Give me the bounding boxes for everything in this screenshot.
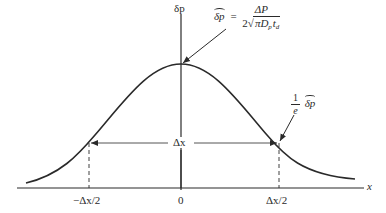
one-over-e: 1 e — [291, 93, 300, 116]
tick-label-neg-half-width: −Δx/2 — [73, 195, 100, 206]
y-axis-label: δp — [174, 3, 185, 14]
equals-sign: = — [230, 10, 236, 22]
peak-fraction: ΔP 2√πDp td — [242, 4, 280, 31]
falloff-pointer-arrow — [280, 115, 294, 141]
width-label: Δx — [172, 137, 187, 148]
peak-hat-symbol: δp — [214, 11, 225, 22]
x-axis-label: x — [367, 181, 372, 192]
tick-label-pos-half-width: Δx/2 — [266, 195, 287, 206]
diagram-canvas — [0, 0, 386, 213]
peak-pointer-arrow — [183, 29, 226, 63]
gaussian-curve — [26, 64, 355, 183]
falloff-hat-symbol: δp — [305, 98, 316, 109]
falloff-annotation: 1 e δp — [291, 93, 315, 116]
peak-equation: δp = ΔP 2√πDp td — [214, 4, 280, 31]
peak-denominator: 2√πDp td — [242, 17, 280, 31]
tick-label-zero: 0 — [178, 195, 184, 206]
